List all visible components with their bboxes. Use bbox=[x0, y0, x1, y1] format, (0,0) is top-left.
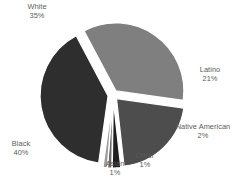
pie-label-other: Other 1% bbox=[128, 152, 162, 169]
pie-label-latino: Latino 21% bbox=[186, 66, 234, 83]
pie-slices-group bbox=[40, 23, 184, 168]
pie-label-asian-value: 1% bbox=[98, 169, 132, 178]
pie-chart: White 35% Latino 21% Native American 2% … bbox=[0, 0, 237, 186]
pie-label-latino-value: 21% bbox=[186, 75, 234, 84]
pie-label-asian: Asian 1% bbox=[98, 160, 132, 177]
pie-label-native-american-value: 2% bbox=[172, 132, 234, 141]
pie-label-black-value: 40% bbox=[2, 149, 40, 158]
pie-label-black: Black 40% bbox=[2, 140, 40, 157]
pie-label-white-value: 35% bbox=[14, 12, 60, 21]
pie-label-native-american: Native American 2% bbox=[172, 123, 234, 140]
pie-label-other-value: 1% bbox=[128, 161, 162, 170]
pie-label-white: White 35% bbox=[14, 3, 60, 20]
